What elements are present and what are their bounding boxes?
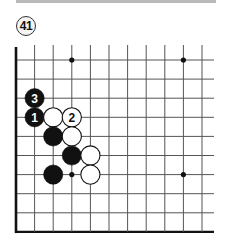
star-point-icon [181, 172, 186, 177]
black-stone [62, 146, 81, 165]
white-stone [62, 127, 81, 146]
star-point-icon [181, 57, 186, 62]
black-stone [44, 127, 63, 146]
star-point-icon [69, 57, 74, 62]
black-stone [44, 165, 63, 184]
move-number-label: 3 [31, 92, 38, 106]
star-point-icon [69, 172, 74, 177]
move-number-label: 1 [31, 111, 38, 125]
white-stone [44, 108, 63, 127]
move-number-label: 2 [68, 111, 75, 125]
go-board: 312 [0, 0, 229, 243]
white-stone [81, 146, 100, 165]
white-stone [81, 165, 100, 184]
